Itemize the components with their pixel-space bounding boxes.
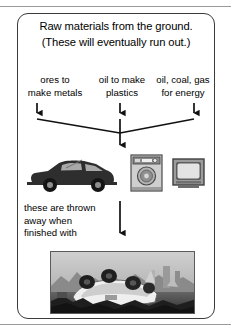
car-icon — [26, 156, 118, 194]
disposal-caption: these are thrown away when finished with — [24, 202, 134, 240]
page-title: Raw materials from the ground. (These wi… — [17, 18, 215, 50]
television-illustration — [172, 157, 205, 190]
disposal-caption-line-2: away when — [24, 215, 134, 228]
scrapyard-photo-image — [51, 252, 195, 314]
television-icon — [172, 157, 205, 190]
source-label-row: ores to make metals oil to make plastics… — [19, 74, 213, 99]
source-column-ores: ores to make metals — [19, 74, 91, 99]
source-oil-line-1: oil to make — [91, 74, 153, 87]
scrapyard-photo — [50, 251, 195, 314]
disposal-caption-line-1: these are thrown — [24, 202, 134, 215]
source-energy-line-2: for energy — [153, 87, 213, 100]
disposal-caption-line-3: finished with — [24, 227, 134, 240]
car-illustration — [26, 156, 118, 194]
title-line-1: Raw materials from the ground. — [39, 20, 192, 32]
source-oil-line-2: plastics — [91, 87, 153, 100]
source-column-oil: oil to make plastics — [91, 74, 153, 99]
source-ores-line-1: ores to — [19, 74, 91, 87]
top-divider-rule — [0, 6, 231, 7]
source-column-energy: oil, coal, gas for energy — [153, 74, 213, 99]
title-line-2: (These will eventually run out.) — [17, 34, 215, 50]
source-ores-line-2: make metals — [19, 87, 91, 100]
source-energy-line-1: oil, coal, gas — [153, 74, 213, 87]
washing-machine-icon — [130, 154, 163, 192]
diagram-canvas: Raw materials from the ground. (These wi… — [0, 0, 231, 331]
bottom-divider-rule — [0, 324, 231, 325]
washing-machine-illustration — [130, 154, 163, 192]
